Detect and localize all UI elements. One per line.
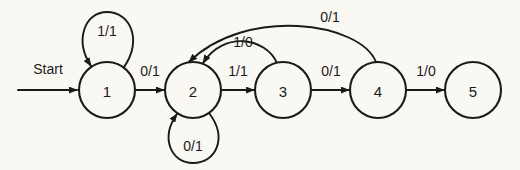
transition-4-to-5: 1/0 xyxy=(407,63,444,90)
transition-label-1-2: 0/1 xyxy=(140,63,160,79)
state-label-5: 5 xyxy=(469,83,477,100)
self-loop-1-path xyxy=(83,12,133,67)
transition-2-to-2-self-loop: 0/1 xyxy=(169,113,219,163)
transition-label-2-3: 1/1 xyxy=(228,63,248,79)
state-label-2: 2 xyxy=(189,83,197,100)
transition-2-to-3: 1/1 xyxy=(222,63,254,90)
transition-label-4-2: 0/1 xyxy=(320,9,340,25)
fsm-diagram: Start 1/1 0/1 0/1 1/1 1/0 xyxy=(0,0,520,170)
transition-1-to-1-self-loop: 1/1 xyxy=(83,12,133,67)
state-node-4[interactable]: 4 xyxy=(350,62,406,118)
transition-label-3-2: 1/0 xyxy=(233,34,253,50)
transition-4-to-2: 0/1 xyxy=(189,9,376,62)
transition-3-to-2: 1/0 xyxy=(203,34,277,63)
edge-4-2-path xyxy=(189,26,376,62)
transition-label-4-5: 1/0 xyxy=(416,63,436,79)
transition-label-1-1: 1/1 xyxy=(97,23,117,39)
state-node-2[interactable]: 2 xyxy=(165,62,221,118)
transition-label-2-2: 0/1 xyxy=(183,138,203,154)
state-label-4: 4 xyxy=(374,83,382,100)
state-label-1: 1 xyxy=(103,83,111,100)
state-node-5[interactable]: 5 xyxy=(445,62,501,118)
transition-1-to-2: 0/1 xyxy=(136,63,164,90)
state-node-1[interactable]: 1 xyxy=(79,62,135,118)
state-node-3[interactable]: 3 xyxy=(255,62,311,118)
transition-label-3-4: 0/1 xyxy=(321,63,341,79)
start-label: Start xyxy=(33,61,63,77)
fsm-canvas: Start 1/1 0/1 0/1 1/1 1/0 xyxy=(0,0,520,170)
transition-3-to-4: 0/1 xyxy=(312,63,349,90)
transition-start-to-1: Start xyxy=(18,61,77,90)
state-label-3: 3 xyxy=(279,83,287,100)
